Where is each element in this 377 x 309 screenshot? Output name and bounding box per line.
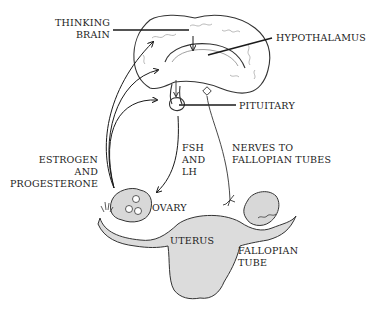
fsh-lh-arrow <box>157 116 178 192</box>
label-fallopian-line1: FALLOPIAN <box>238 245 298 257</box>
label-fsh-line1: FSH <box>182 142 205 154</box>
label-estrogen-line2: AND <box>10 166 98 178</box>
label-hypothalamus: HYPOTHALAMUS <box>276 32 366 44</box>
left-ovary-icon <box>101 188 152 221</box>
label-fsh-line3: LH <box>182 166 205 178</box>
label-fallopian-line2: TUBE <box>238 257 298 269</box>
label-estrogen-progesterone: ESTROGEN AND PROGESTERONE <box>10 154 98 190</box>
label-pituitary: PITUITARY <box>239 100 295 112</box>
label-thinking-brain-line2: BRAIN <box>50 29 110 41</box>
label-fsh-lh: FSH AND LH <box>182 142 205 178</box>
right-ovary-icon <box>244 192 279 226</box>
label-thinking-brain-line1: THINKING <box>50 17 110 29</box>
label-thinking-brain: THINKING BRAIN <box>50 17 110 41</box>
label-fallopian-tube: FALLOPIAN TUBE <box>238 245 298 269</box>
label-estrogen-line3: PROGESTERONE <box>10 178 98 190</box>
brain-icon <box>134 15 270 104</box>
estrogen-feedback-arrows <box>106 42 158 188</box>
pituitary-icon <box>170 80 212 111</box>
label-nerves-line2: FALLOPIAN TUBES <box>232 154 331 166</box>
label-uterus: UTERUS <box>170 235 214 247</box>
label-fsh-line2: AND <box>182 154 205 166</box>
label-ovary: OVARY <box>152 202 187 214</box>
label-nerves-line1: NERVES TO <box>232 142 331 154</box>
nerve-fiber <box>207 96 235 206</box>
label-estrogen-line1: ESTROGEN <box>10 154 98 166</box>
label-nerves-to-fallopian-tubes: NERVES TO FALLOPIAN TUBES <box>232 142 331 166</box>
reproductive-hormone-diagram: THINKING BRAIN HYPOTHALAMUS PITUITARY FS… <box>0 0 377 309</box>
